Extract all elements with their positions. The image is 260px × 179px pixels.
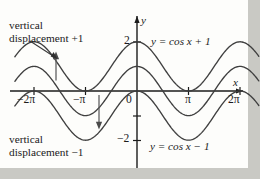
- cosine-shift-figure: vertical displacement +1 vertical displa…: [0, 0, 260, 179]
- x-axis-label: x: [233, 76, 238, 89]
- y-axis: [134, 16, 139, 168]
- annotation-bottom-line1: vertical: [9, 133, 43, 145]
- annotation-top-line2: displacement +1: [9, 32, 83, 44]
- origin-label: 0: [126, 93, 132, 107]
- y-tick-label-2: 2: [124, 34, 130, 48]
- x-tick-label-minus-pi: −π: [73, 93, 85, 107]
- x-tick-label-2pi: 2π: [228, 93, 240, 107]
- equation-label-cos-x-plus-1: y = cos x + 1: [151, 35, 211, 48]
- annotation-vertical-displacement-plus: vertical displacement +1: [9, 19, 83, 46]
- x-tick-label-pi: π: [185, 93, 191, 107]
- annotation-vertical-displacement-minus: vertical displacement −1: [9, 133, 83, 160]
- x-tick-label-minus-2pi: −2π: [17, 93, 35, 107]
- y-axis-label: y: [141, 14, 146, 27]
- equation-label-cos-x-minus-1: y = cos x − 1: [150, 140, 210, 153]
- down-arrow-minus-one: [96, 95, 102, 130]
- annotation-bottom-line2: displacement −1: [9, 146, 83, 158]
- y-tick-label-minus-2: −2: [117, 132, 129, 146]
- annotation-top-line1: vertical: [9, 19, 43, 31]
